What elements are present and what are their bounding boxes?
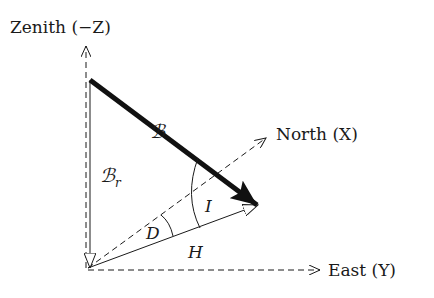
inclination-label: I (204, 196, 212, 216)
declination-arc (161, 215, 173, 236)
zenith-label: Zenith (−Z) (10, 17, 111, 37)
declination-label: D (145, 223, 160, 243)
horizontal-label: H (187, 242, 204, 262)
horizontal-vector (88, 205, 258, 268)
north-label: North (X) (276, 124, 358, 144)
inclination-arc (191, 158, 200, 228)
geomagnetic-diagram: Zenith (−Z) North (X) East (Y) ℬ ℬr H I … (0, 0, 434, 298)
north-axis (88, 138, 266, 268)
radial-label: ℬr (100, 164, 122, 190)
east-label: East (Y) (328, 260, 396, 280)
total-field-label: ℬ (150, 120, 167, 142)
